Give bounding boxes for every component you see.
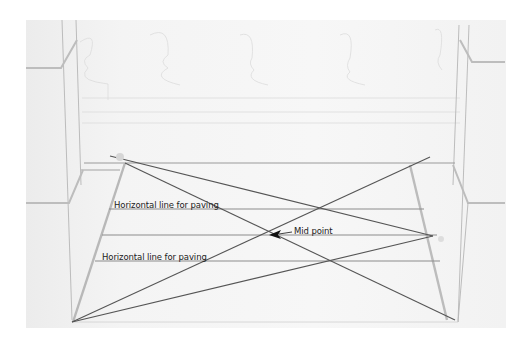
- eraser-smudge: [438, 236, 444, 242]
- left-pillar: [26, 20, 120, 320]
- balustrade-sketch: [80, 29, 460, 123]
- paving-outline: [72, 163, 458, 322]
- label-horizontal-line-lower: Horizontal line for paving: [102, 252, 207, 262]
- perspective-drawing: [0, 0, 521, 350]
- label-mid-point: Mid point: [294, 226, 333, 236]
- label-horizontal-line-upper: Horizontal line for paving: [114, 200, 219, 210]
- right-pillar: [453, 25, 505, 322]
- diagonal-construction-lines: [72, 156, 455, 322]
- eraser-smudge: [116, 153, 124, 161]
